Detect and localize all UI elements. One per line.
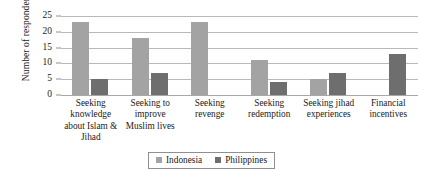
bar [151, 73, 168, 95]
bar-groups [61, 16, 418, 95]
bar [72, 22, 89, 95]
bar-group [180, 16, 240, 95]
x-tick-label: Seeking jihadexperiences [299, 98, 359, 144]
legend-item: Philippines [215, 155, 267, 165]
y-tick-label: 5 [28, 74, 52, 84]
legend-item: Indonesia [156, 155, 202, 165]
y-axis-ticks: 0510152025 [30, 16, 61, 95]
bar-group [61, 16, 121, 95]
x-tick-label: Seeking toimproveMuslim lives [121, 98, 181, 144]
bar [91, 79, 108, 95]
bar [132, 38, 149, 95]
x-tick-label: Seekingknowledgeabout Islam &Jihad [61, 98, 121, 144]
y-tick-label: 10 [28, 59, 52, 69]
legend-label: Philippines [225, 155, 267, 165]
bar [389, 54, 406, 95]
bar-group [299, 16, 359, 95]
bar [251, 60, 268, 95]
y-tick-label: 15 [28, 43, 52, 53]
legend-label: Indonesia [166, 155, 202, 165]
bar-group [359, 16, 419, 95]
x-tick-label: Seekingredemption [240, 98, 300, 144]
bar-chart: Number of respondents 0510152025 Seeking… [0, 0, 427, 193]
bar-group [240, 16, 300, 95]
bar [270, 82, 287, 95]
bar-group [121, 16, 181, 95]
y-tick-label: 25 [28, 11, 52, 21]
y-tick-label: 0 [28, 90, 52, 100]
chart-legend: IndonesiaPhilippines [148, 152, 275, 169]
bar [310, 79, 327, 95]
x-tick-label: Seekingrevenge [180, 98, 240, 144]
legend-swatch-icon [215, 157, 221, 163]
bar [329, 73, 346, 95]
x-tick-label: Financialincentives [359, 98, 419, 144]
x-axis-categories: Seekingknowledgeabout Islam &JihadSeekin… [61, 98, 418, 144]
gridline [61, 95, 418, 96]
bar [191, 22, 208, 95]
legend-swatch-icon [156, 157, 162, 163]
y-tick-label: 20 [28, 27, 52, 37]
